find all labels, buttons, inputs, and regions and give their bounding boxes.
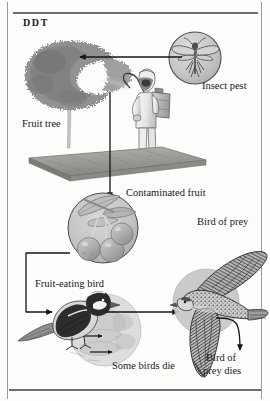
label-contaminated-fruit: Contaminated fruit: [126, 187, 206, 199]
label-bird-of-prey-dies-line2: prey dies: [203, 365, 241, 377]
contaminated-fruit-illustration: [68, 193, 138, 263]
diagram-page: DDT: [0, 0, 270, 401]
diagram-artwork: [0, 0, 270, 401]
label-bird-of-prey: Bird of prey: [197, 216, 248, 228]
ground-plane-illustration: [29, 147, 206, 181]
label-bird-of-prey-dies-line1: Bird of: [206, 352, 236, 364]
label-fruit-eating-bird: Fruit-eating bird: [35, 278, 104, 290]
label-some-birds-die: Some birds die: [112, 360, 175, 372]
label-fruit-tree: Fruit tree: [22, 118, 61, 130]
insect-pest-illustration: [169, 32, 221, 84]
label-insect-pest: Insect pest: [202, 80, 247, 92]
